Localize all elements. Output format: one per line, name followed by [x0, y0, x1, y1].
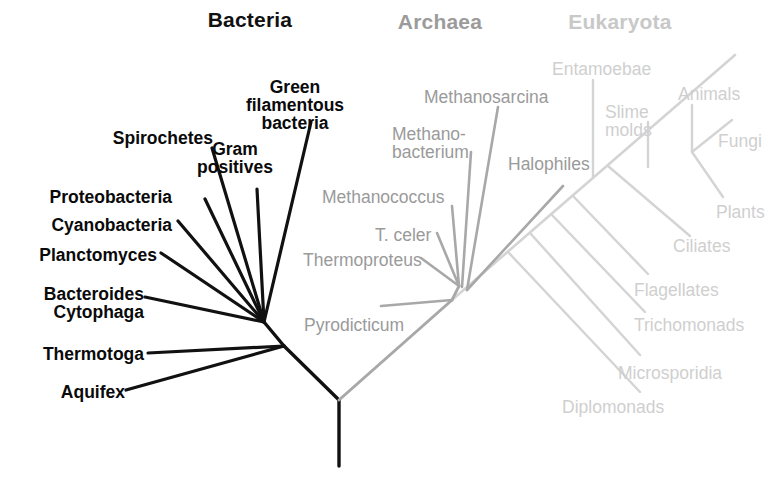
taxon-label-thermoproteus: Thermoproteus — [303, 251, 451, 269]
taxon-label-aquifex: Aquifex — [30, 383, 125, 401]
taxon-label-trichomonads: Trichomonads — [634, 316, 774, 334]
taxon-label-green-filamentous-bacteria: Greenfilamentousbacteria — [230, 78, 360, 132]
taxon-label-microsporidia: Microsporidia — [618, 364, 756, 382]
taxon-label-pyrodicticum: Pyrodicticum — [304, 316, 439, 334]
taxon-label-thermotoga: Thermotoga — [16, 345, 144, 363]
taxon-label-proteobacteria: Proteobacteria — [20, 188, 172, 206]
taxon-label-methanobacterium: Methano-bacterium — [392, 125, 492, 161]
taxon-label-diplomonads: Diplomonads — [562, 398, 698, 416]
branch-br-pyrodicticum — [381, 300, 452, 306]
branch-br-ciliates — [608, 166, 690, 236]
branch-br-flagellates — [573, 196, 648, 274]
branch-root-to-bacteria — [284, 346, 339, 400]
taxon-label-slime-molds: Slimemolds — [605, 103, 675, 139]
domain-title-archaea: Archaea — [350, 10, 530, 34]
taxon-label-ciliates: Ciliates — [673, 237, 753, 255]
taxon-label-cyanobacteria: Cyanobacteria — [23, 216, 172, 234]
phylogenetic-tree-figure: BacteriaArchaeaEukaryota Greenfilamentou… — [0, 0, 784, 485]
taxon-label-animals: Animals — [678, 85, 766, 103]
taxon-label-fungi: Fungi — [718, 132, 780, 150]
taxon-label-plants: Plants — [716, 203, 782, 221]
branch-br-plants — [692, 152, 723, 197]
taxon-label-entamoebae: Entamoebae — [552, 60, 682, 78]
taxon-label-flagellates: Flagellates — [634, 281, 746, 299]
taxon-label-methanococcus: Methanococcus — [322, 188, 482, 206]
taxon-label-spirochetes: Spirochetes — [88, 129, 213, 147]
domain-title-bacteria: Bacteria — [150, 8, 350, 32]
taxon-label-planctomyces: Planctomyces — [22, 246, 157, 264]
taxon-label-methanosarcina: Methanosarcina — [424, 88, 584, 106]
taxon-label-gram-positives: Grampositives — [196, 140, 274, 176]
taxon-label-bacteroides-cytophaga: BacteroidesCytophaga — [14, 285, 144, 321]
domain-title-eukaryota: Eukaryota — [520, 10, 720, 34]
taxon-label-halophiles: Halophiles — [508, 155, 613, 173]
branch-bact-node-link — [264, 322, 284, 346]
taxon-label-t-celer: T. celer — [375, 226, 460, 244]
branch-br-trichomonads — [551, 214, 645, 312]
